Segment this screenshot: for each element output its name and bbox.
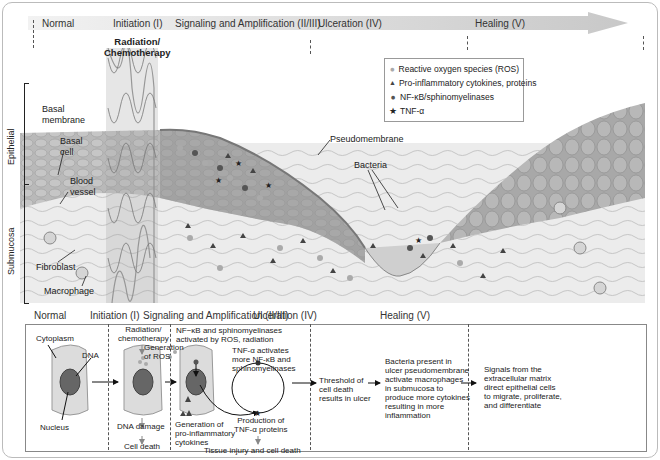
- nucleus-label: Nucleus: [40, 423, 69, 432]
- dna-label: DNA: [82, 351, 99, 360]
- ulcer-threshold-text: Threshold ofcell deathresults in ulcer: [319, 376, 371, 403]
- healing-signals-text: Signals from theextracellular matrixdire…: [484, 365, 562, 410]
- generation-ros-text: Generationof ROS: [144, 343, 184, 361]
- cell-death-text: Cell death: [124, 442, 160, 451]
- dna-damage-text: DNA damage: [117, 422, 165, 431]
- bacteria-macrophage-text: Bacteria present inulcer pseudomembranea…: [385, 357, 470, 420]
- tnf-activates-text: TNF-α activatesmore NF-κB andsphinomyeli…: [232, 346, 296, 373]
- nfkb-activation-text: NF−κB and sphinomyelinasesactivated by R…: [176, 326, 282, 344]
- tnf-production-text: Production ofTNF-α proteins: [234, 416, 288, 434]
- cytokine-generation-text: Generation ofpro-inflammatorycytokines: [175, 420, 235, 447]
- radiation-chemo-text: Radiation/chemotherapy: [118, 325, 169, 343]
- tissue-injury-text: Tissue injury and cell death: [204, 446, 301, 455]
- signaling-cell: [180, 345, 214, 415]
- cytoplasm-label: Cytoplasm: [36, 334, 74, 343]
